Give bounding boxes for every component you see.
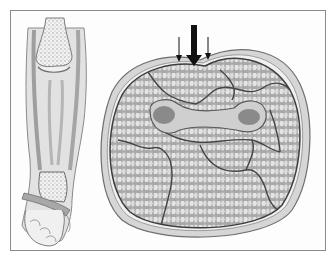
illustration bbox=[0, 0, 334, 263]
forearm-panel bbox=[22, 18, 86, 246]
cross-section-panel bbox=[101, 50, 310, 237]
carpal-bones bbox=[39, 172, 67, 202]
ulna-marrow bbox=[238, 109, 260, 125]
radius-marrow bbox=[153, 106, 175, 124]
humerus-bone bbox=[36, 18, 72, 67]
